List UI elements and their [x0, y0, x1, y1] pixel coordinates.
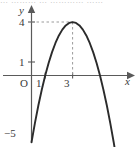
x-tick-label-3: 3: [64, 78, 70, 89]
y-tick-label-1: 1: [19, 57, 25, 68]
y-axis-label: y: [19, 5, 24, 16]
origin-label: O: [20, 78, 28, 89]
y-tick-label-4: 4: [19, 17, 25, 28]
parabola-curve: [32, 22, 116, 147]
y-axis-arrow-icon: [28, 5, 35, 13]
x-axis-label: x: [125, 76, 130, 87]
parabola-figure: … ……… … ………… …… y x 4 1 −5 O 1 3: [0, 0, 139, 147]
y-tick-label-minus-5: −5: [4, 128, 16, 139]
x-tick-label-1: 1: [36, 78, 42, 89]
